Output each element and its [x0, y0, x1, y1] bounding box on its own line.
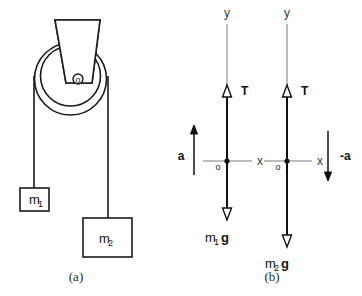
fbd2-acceleration-label: -a [340, 149, 351, 163]
panel-b-free-body-diagram-m2: y x o T m 2 g -a [264, 6, 351, 273]
fbd1-acceleration-label: a [178, 149, 185, 163]
fbd2-weight-arrowhead [283, 235, 292, 247]
fbd2-gravity-label: g [281, 256, 289, 271]
fbd1-x-axis-label: x [257, 154, 263, 168]
fbd2-tension-arrowhead [283, 85, 292, 97]
panel-a-pulley-system: o m 1 m 2 (a) [20, 20, 132, 284]
fbd1-tension-label: T [241, 84, 249, 98]
panel-a-caption: (a) [69, 269, 83, 284]
fbd1-origin-label: o [215, 162, 220, 172]
fbd1-weight-subscript: 1 [214, 237, 219, 247]
fbd2-y-axis-label: y [284, 6, 290, 20]
fbd1-gravity-label: g [221, 230, 229, 245]
physics-figure-canvas: o m 1 m 2 (a) y x [0, 0, 362, 296]
mass-block-m1-subscript: 1 [38, 199, 43, 209]
fbd1-y-axis-label: y [224, 6, 230, 20]
fbd2-tension-label: T [301, 84, 309, 98]
fbd2-origin-label: o [275, 162, 280, 172]
panel-b-caption: (b) [264, 269, 279, 284]
fbd2-x-axis-label: x [317, 154, 323, 168]
fbd1-weight-arrowhead [223, 208, 232, 220]
fbd1-acceleration-arrowhead [191, 125, 198, 134]
pulley-hub-label: o [75, 75, 80, 85]
fbd1-tension-arrowhead [223, 85, 232, 97]
figure-root: o m 1 m 2 (a) y x [0, 0, 362, 296]
fbd2-acceleration-arrowhead [325, 172, 332, 181]
panel-b-free-body-diagram-m1: y x o T m 1 g a [178, 6, 263, 247]
mass-block-m2-subscript: 2 [108, 238, 113, 248]
